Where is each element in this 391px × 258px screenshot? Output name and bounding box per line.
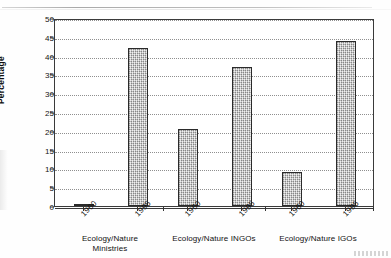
chart-figure: Percentage 05101520253035404550 19601995… [0,0,391,258]
x-tick-group-boundary-0 [163,207,164,211]
bar-0-1995 [128,48,148,206]
group-label-2: Ecology/Nature IGOs [263,234,373,244]
x-tick-group-boundary-2 [373,207,374,211]
y-axis: 05101520253035404550 [22,19,54,207]
x-axis-year-labels: 196019951960199519601995 [54,212,374,236]
bar-2-1995 [336,41,356,206]
scan-artifact-line-secondary [0,9,391,10]
group-label-1: Ecology/Nature INGOs [159,234,269,244]
x-tick-group-boundary-1 [265,207,266,211]
bar-1-1960 [178,129,198,206]
x-axis-group-labels: Ecology/Nature MinistriesEcology/Nature … [54,234,374,258]
bar-1-1995 [232,67,252,206]
plot-area [54,19,374,207]
group-label-0: Ecology/Nature Ministries [55,234,165,253]
y-axis-title: Percentage [0,56,6,104]
scan-smudge-left [0,150,8,210]
bars-layer [55,20,373,206]
scan-artifact-line [2,7,372,8]
